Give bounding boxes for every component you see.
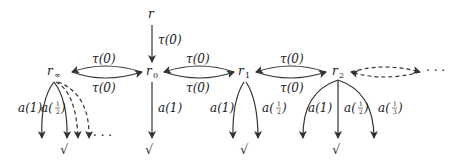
svg-text:2: 2 — [56, 108, 60, 115]
svg-text:r: r — [238, 64, 245, 78]
label-r1-a1: a(1) — [210, 101, 234, 115]
label-rinf-ahalf: a( 1 2 ) — [41, 100, 66, 115]
svg-text:a(: a( — [344, 101, 356, 115]
node-r: r — [148, 7, 155, 21]
label-tau-bottom-left: τ(0) — [92, 81, 116, 95]
terminal-r0: √ — [145, 142, 154, 157]
label-tau-r-r0: τ(0) — [158, 33, 182, 47]
svg-text:a(: a( — [41, 101, 53, 115]
edge-dashed-next-r2 — [351, 72, 420, 77]
lts-diagram: r τ(0) r ∞ r 0 r 1 r 2 τ(0) τ(0) τ(0) τ(… — [0, 0, 458, 165]
edge-r1-ahalf — [246, 82, 258, 138]
label-rinf-a1: a(1) — [18, 101, 42, 115]
svg-text:a(: a( — [262, 101, 274, 115]
node-r1: r 1 — [238, 64, 250, 80]
terminal-r1: √ — [240, 142, 249, 157]
svg-text:1: 1 — [277, 100, 281, 107]
label-tau-top-mid: τ(0) — [186, 52, 210, 66]
label-r2-a1: a(1) — [308, 101, 332, 115]
label-tau-bottom-right: τ(0) — [280, 81, 304, 95]
svg-text:1: 1 — [56, 100, 60, 107]
terminal-rinf: √ — [60, 142, 69, 157]
svg-text:r: r — [47, 64, 54, 78]
edge-r1-r0 — [164, 66, 234, 72]
svg-text:r: r — [146, 64, 153, 78]
label-tau-top-left: τ(0) — [92, 52, 116, 66]
svg-text:1: 1 — [245, 71, 250, 80]
edge-r0-r1 — [164, 72, 234, 78]
svg-text:): ) — [397, 101, 403, 115]
node-r-inf: r ∞ — [47, 64, 61, 80]
label-r1-ahalf: a( 1 2 ) — [262, 100, 287, 115]
svg-text:1: 1 — [359, 100, 363, 107]
node-r2: r 2 — [332, 64, 344, 80]
label-r2-athird: a( 1 3 ) — [378, 100, 403, 115]
svg-text:3: 3 — [393, 108, 397, 115]
ellipsis-rinf: · · · — [93, 129, 112, 143]
svg-text:2: 2 — [339, 71, 344, 80]
svg-text:2: 2 — [277, 108, 281, 115]
svg-text:): ) — [281, 101, 287, 115]
svg-text:2: 2 — [359, 108, 363, 115]
edge-r2-r1 — [256, 66, 326, 72]
edge-r1-a1 — [233, 82, 244, 138]
svg-text:a(: a( — [378, 101, 390, 115]
terminal-r2: √ — [332, 142, 341, 157]
svg-text:r: r — [332, 64, 339, 78]
svg-text:0: 0 — [153, 71, 158, 80]
label-tau-bottom-mid: τ(0) — [186, 81, 210, 95]
edge-r0-rinf — [72, 66, 142, 72]
svg-text:∞: ∞ — [54, 71, 61, 80]
edge-rinf-r0 — [72, 72, 142, 78]
label-r0-a1: a(1) — [158, 101, 182, 115]
svg-text:1: 1 — [393, 100, 397, 107]
edge-dashed-r2-next — [351, 67, 420, 72]
node-r0: r 0 — [146, 64, 158, 80]
svg-text:): ) — [60, 101, 66, 115]
label-tau-top-right: τ(0) — [280, 52, 304, 66]
svg-text:): ) — [363, 101, 369, 115]
label-r2-ahalf: a( 1 2 ) — [344, 100, 369, 115]
edge-r1-r2 — [256, 72, 326, 78]
ellipsis-right: · · · — [426, 64, 445, 78]
